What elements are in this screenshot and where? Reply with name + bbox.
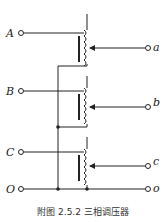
output-label-b: b (153, 96, 160, 109)
figure-caption: 附图 2.5.2 三相调压器 (37, 206, 129, 217)
input-label-o: O (6, 183, 15, 196)
phase-b-coil (24, 76, 145, 127)
output-label-a: a (153, 41, 160, 54)
output-label-c: c (153, 155, 159, 168)
input-label-b: B (5, 85, 14, 98)
input-label-a: A (5, 27, 14, 40)
input-label-c: C (6, 146, 15, 159)
three-phase-voltage-regulator-diagram: A B C O a b c o 附图 2.5.2 三相调压器 (0, 0, 167, 222)
phase-c-coil (24, 137, 145, 189)
output-label-o: o (153, 182, 160, 195)
phase-a-coil (24, 14, 145, 66)
